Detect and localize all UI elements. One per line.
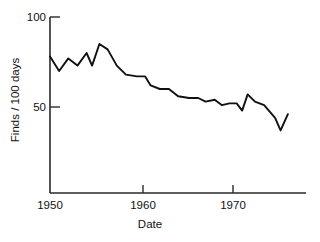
- y-axis-title: Finds / 100 days: [9, 58, 21, 143]
- chart-container: 100 50 Finds / 100 days 1950 1960 1970 D…: [0, 0, 320, 242]
- data-series-line: [50, 44, 288, 130]
- y-axis-group: 100 50 Finds / 100 days: [9, 11, 60, 193]
- line-chart: 100 50 Finds / 100 days 1950 1960 1970 D…: [0, 0, 320, 242]
- y-tick-label-100: 100: [27, 11, 46, 23]
- x-axis-group: 1950 1960 1970 Date: [37, 185, 306, 230]
- x-tick-label-1970: 1970: [220, 199, 246, 211]
- x-tick-label-1960: 1960: [130, 199, 156, 211]
- y-tick-label-50: 50: [33, 101, 46, 113]
- x-axis-title: Date: [138, 218, 162, 230]
- x-tick-label-1950: 1950: [37, 199, 63, 211]
